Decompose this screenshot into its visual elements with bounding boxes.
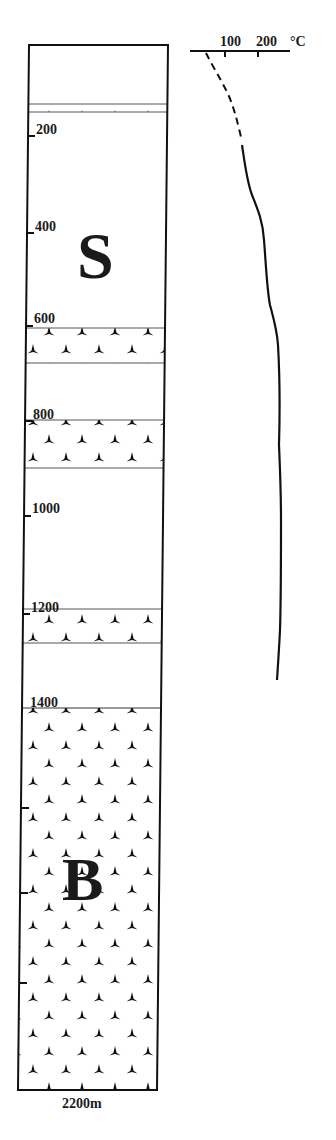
unit-label-b: B	[62, 845, 103, 913]
temperature-axis	[190, 51, 290, 57]
temperature-tick-200: 200	[256, 34, 277, 49]
temperature-curve-dashed	[206, 53, 241, 137]
volcanic-band-2	[0, 328, 200, 363]
temperature-tick-100: 100	[220, 34, 241, 49]
depth-label-800: 800	[33, 407, 54, 422]
unit-label-s: S	[77, 219, 114, 292]
depth-label-600: 600	[34, 311, 55, 326]
depth-label-1000: 1000	[32, 501, 60, 516]
depth-label-1200: 1200	[31, 600, 59, 615]
volcanic-band-3	[0, 420, 200, 468]
temperature-unit: °C	[290, 34, 306, 49]
volcanic-band-1	[0, 104, 200, 112]
stratigraphic-column-diagram: 200 400 600 800 1000 1200 1400 S B 2200m…	[0, 0, 336, 1140]
total-depth-label: 2200m	[62, 1096, 102, 1111]
depth-label-200: 200	[36, 122, 57, 137]
temperature-curve-solid	[242, 145, 281, 680]
depth-label-400: 400	[35, 219, 56, 234]
depth-label-1400: 1400	[30, 695, 58, 710]
